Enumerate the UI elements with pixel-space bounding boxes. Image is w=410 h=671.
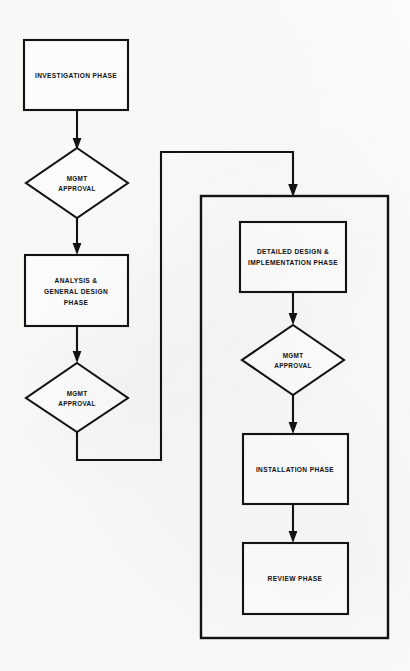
connector-analysis-to-approval2: [73, 326, 82, 363]
node-investigation-phase[interactable]: INVESTIGATION PHASE: [24, 40, 128, 110]
detailed-design-implementation-phase-label-line2: IMPLEMENTATION PHASE: [248, 259, 338, 266]
installation-phase-label: INSTALLATION PHASE: [256, 466, 334, 473]
mgmt-approval-2-label-line1: MGMT: [67, 390, 88, 397]
connector-investigation-to-approval1: [73, 110, 82, 150]
investigation-phase-label: INVESTIGATION PHASE: [35, 72, 117, 79]
analysis-general-design-phase-label-line3: PHASE: [64, 299, 89, 306]
detailed-design-implementation-phase-label-line1: DETAILED DESIGN &: [257, 248, 329, 255]
node-detailed-design-implementation-phase[interactable]: DETAILED DESIGN & IMPLEMENTATION PHASE: [240, 222, 346, 292]
node-review-phase[interactable]: REVIEW PHASE: [243, 543, 348, 614]
node-mgmt-approval-1[interactable]: MGMT APPROVAL: [26, 148, 128, 218]
mgmt-approval-3-label-line2: APPROVAL: [274, 362, 311, 369]
flowchart-svg: INVESTIGATION PHASE MGMT APPROVAL ANALYS…: [0, 0, 410, 671]
mgmt-approval-2-diamond[interactable]: [26, 363, 128, 432]
mgmt-approval-3-diamond[interactable]: [242, 325, 344, 395]
connector-installation-to-review: [289, 504, 298, 543]
mgmt-approval-3-label-line1: MGMT: [283, 352, 304, 359]
connector-approval1-to-analysis: [73, 218, 82, 255]
mgmt-approval-1-label-line1: MGMT: [67, 175, 88, 182]
node-mgmt-approval-2[interactable]: MGMT APPROVAL: [26, 363, 128, 432]
analysis-general-design-phase-label-line1: ANALYSIS &: [55, 277, 98, 284]
connector-approval3-to-installation: [289, 395, 298, 434]
mgmt-approval-1-label-line2: APPROVAL: [58, 185, 95, 192]
node-installation-phase[interactable]: INSTALLATION PHASE: [243, 434, 348, 504]
review-phase-label: REVIEW PHASE: [268, 575, 323, 582]
connector-detailed-design-to-approval3: [289, 292, 298, 325]
mgmt-approval-1-diamond[interactable]: [26, 148, 128, 218]
node-mgmt-approval-3[interactable]: MGMT APPROVAL: [242, 325, 344, 395]
flowchart-canvas: INVESTIGATION PHASE MGMT APPROVAL ANALYS…: [0, 0, 410, 671]
node-analysis-general-design-phase[interactable]: ANALYSIS & GENERAL DESIGN PHASE: [25, 255, 128, 326]
mgmt-approval-2-label-line2: APPROVAL: [58, 400, 95, 407]
analysis-general-design-phase-label-line2: GENERAL DESIGN: [44, 288, 108, 295]
detailed-design-implementation-phase-box[interactable]: [240, 222, 346, 292]
